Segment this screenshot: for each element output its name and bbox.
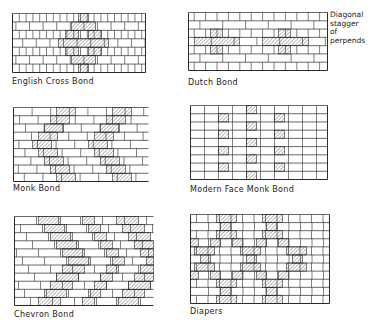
hatched-brick bbox=[279, 29, 291, 37]
hatched-brick bbox=[293, 255, 303, 263]
panel-modern-face-monk bbox=[190, 105, 328, 180]
hatched-brick bbox=[45, 157, 64, 165]
hatched-brick bbox=[233, 239, 243, 247]
hatched-brick bbox=[123, 225, 145, 233]
hatched-brick bbox=[275, 114, 285, 122]
hatched-brick bbox=[117, 297, 139, 305]
hatched-brick bbox=[211, 46, 223, 54]
hatched-brick bbox=[195, 263, 215, 271]
brick-wall-chevron bbox=[14, 216, 154, 306]
hatched-brick bbox=[219, 130, 229, 138]
hatched-brick bbox=[263, 37, 309, 45]
hatched-brick bbox=[241, 263, 261, 271]
caption-modern-face-monk: Modern Face Monk Bond bbox=[190, 185, 294, 194]
hatched-brick bbox=[247, 138, 257, 146]
hatched-brick bbox=[89, 140, 108, 148]
hatched-brick bbox=[247, 171, 257, 179]
brick-wall-dutch bbox=[188, 12, 328, 71]
hatched-brick bbox=[135, 241, 154, 249]
hatched-brick bbox=[59, 39, 109, 47]
hatched-brick bbox=[83, 217, 95, 225]
hatched-brick bbox=[113, 108, 132, 116]
hatched-brick bbox=[107, 165, 126, 173]
hatched-brick bbox=[95, 281, 107, 289]
hatched-brick bbox=[89, 47, 102, 55]
hatched-brick bbox=[247, 255, 257, 263]
hatched-brick bbox=[221, 287, 231, 295]
hatched-brick bbox=[279, 46, 291, 54]
hatched-brick bbox=[72, 22, 96, 30]
hatched-brick bbox=[101, 124, 120, 132]
panel-dutch bbox=[188, 12, 328, 71]
hatched-brick bbox=[117, 217, 139, 225]
hatched-brick bbox=[63, 265, 85, 273]
hatched-brick bbox=[57, 108, 76, 116]
panel-english-cross bbox=[12, 13, 146, 73]
hatched-brick bbox=[257, 271, 267, 279]
hatched-brick bbox=[101, 241, 113, 249]
hatched-brick bbox=[57, 173, 76, 181]
hatched-brick bbox=[39, 132, 58, 140]
hatched-brick bbox=[241, 247, 261, 255]
hatched-brick bbox=[39, 297, 61, 305]
hatched-brick bbox=[66, 47, 79, 55]
hatched-brick bbox=[247, 106, 257, 114]
perpends-annotation: Diagonal stagger of perpends bbox=[330, 11, 373, 45]
hatched-brick bbox=[135, 273, 154, 281]
hatched-brick bbox=[275, 163, 285, 171]
brick-wall-modern-face-monk bbox=[190, 105, 328, 180]
caption-dutch: Dutch Bond bbox=[188, 78, 238, 87]
hatched-brick bbox=[72, 56, 96, 64]
hatched-brick bbox=[147, 257, 154, 265]
hatched-brick bbox=[123, 289, 145, 297]
hatched-brick bbox=[51, 233, 73, 241]
hatched-brick bbox=[45, 289, 67, 297]
hatched-brick bbox=[287, 263, 307, 271]
hatched-brick bbox=[247, 122, 257, 130]
hatched-brick bbox=[107, 116, 126, 124]
hatched-brick bbox=[219, 163, 229, 171]
hatched-brick bbox=[57, 273, 79, 281]
hatched-brick bbox=[219, 147, 229, 155]
panel-chevron bbox=[14, 216, 154, 306]
hatched-brick bbox=[95, 149, 114, 157]
hatched-brick bbox=[191, 271, 199, 279]
hatched-brick bbox=[275, 130, 285, 138]
hatched-brick bbox=[51, 281, 73, 289]
hatched-brick bbox=[267, 223, 277, 231]
hatched-brick bbox=[51, 116, 70, 124]
hatched-brick bbox=[95, 233, 107, 241]
hatched-brick bbox=[51, 165, 70, 173]
hatched-brick bbox=[129, 281, 151, 289]
hatched-brick bbox=[247, 155, 257, 163]
hatched-brick bbox=[66, 30, 79, 38]
hatched-brick bbox=[129, 233, 151, 241]
annotation-line: of perpends bbox=[330, 28, 373, 45]
hatched-brick bbox=[113, 173, 132, 181]
hatched-brick bbox=[89, 30, 102, 38]
hatched-brick bbox=[211, 29, 223, 37]
hatched-brick bbox=[195, 37, 240, 45]
panel-diapers bbox=[190, 214, 330, 304]
brick-wall-diapers bbox=[190, 214, 330, 304]
hatched-brick bbox=[219, 114, 229, 122]
hatched-brick bbox=[279, 271, 289, 279]
hatched-brick bbox=[69, 257, 91, 265]
hatched-brick bbox=[279, 239, 289, 247]
hatched-brick bbox=[141, 265, 154, 273]
hatched-brick bbox=[195, 247, 215, 255]
hatched-brick bbox=[101, 273, 113, 281]
hatched-brick bbox=[63, 249, 85, 257]
hatched-brick bbox=[113, 257, 125, 265]
hatched-brick bbox=[89, 225, 101, 233]
brick-wall-monk bbox=[13, 107, 149, 182]
hatched-brick bbox=[45, 124, 64, 132]
hatched-brick bbox=[275, 147, 285, 155]
hatched-brick bbox=[95, 132, 114, 140]
hatched-brick bbox=[107, 249, 119, 257]
panel-monk bbox=[13, 107, 149, 182]
hatched-brick bbox=[101, 157, 120, 165]
caption-english-cross: English Cross Bond bbox=[12, 77, 94, 86]
hatched-brick bbox=[221, 223, 231, 231]
hatched-brick bbox=[57, 241, 79, 249]
